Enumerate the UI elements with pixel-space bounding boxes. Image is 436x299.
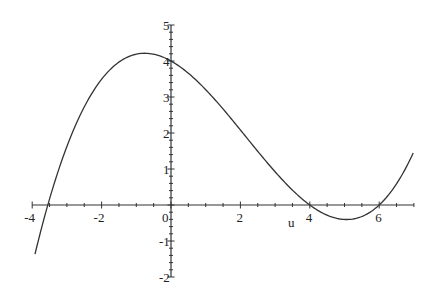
x-tick-label: 2 (236, 210, 243, 225)
y-tick-label: 1 (163, 162, 170, 177)
tick-labels: -4-20246-2-112345 (24, 18, 382, 285)
function-plot: -4-20246-2-112345 u (0, 0, 436, 299)
x-tick-label: -2 (94, 210, 105, 225)
y-tick-label: 2 (163, 126, 170, 141)
x-tick-label: -4 (24, 210, 35, 225)
y-tick-label: -1 (159, 234, 170, 249)
axes (32, 25, 414, 277)
x-axis-label: u (288, 215, 295, 230)
curve (35, 53, 413, 254)
x-tick-label: 4 (306, 210, 313, 225)
y-tick-label: 5 (163, 18, 170, 33)
y-tick-label: 3 (163, 90, 170, 105)
x-tick-label: 0 (162, 210, 169, 225)
function-curve (35, 53, 413, 254)
y-tick-label: -2 (159, 270, 170, 285)
y-tick-label: 4 (163, 54, 170, 69)
x-tick-label: 6 (375, 210, 382, 225)
